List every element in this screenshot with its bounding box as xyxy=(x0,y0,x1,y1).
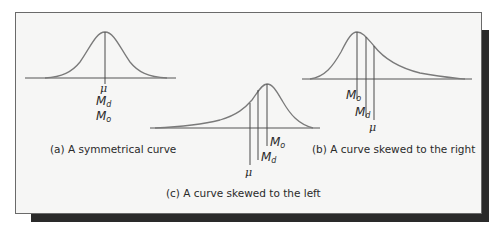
panel-b-mode-label: Mo xyxy=(346,89,361,103)
panel-a-mode-label: Mo xyxy=(96,110,111,124)
panel-a-symmetrical xyxy=(25,32,176,84)
panel-c-mean-label: μ xyxy=(245,167,252,178)
panel-c-median-label: Md xyxy=(261,151,276,165)
panel-b-mean-label: μ xyxy=(369,122,376,133)
panel-a-median-label: Md xyxy=(96,95,111,109)
panel-b-median-label: Md xyxy=(355,106,370,120)
panel-c-curve xyxy=(155,84,313,128)
panel-a-mean-label: μ xyxy=(100,83,107,94)
panel-c-mode-label: Mo xyxy=(270,136,285,150)
panel-b-right-skewed xyxy=(302,32,472,120)
panel-a-caption: (a) A symmetrical curve xyxy=(50,144,176,155)
panel-a-curve xyxy=(45,32,167,78)
panel-c-caption: (c) A curve skewed to the left xyxy=(166,188,321,199)
panel-b-curve xyxy=(310,32,465,79)
panel-b-caption: (b) A curve skewed to the right xyxy=(312,144,475,155)
